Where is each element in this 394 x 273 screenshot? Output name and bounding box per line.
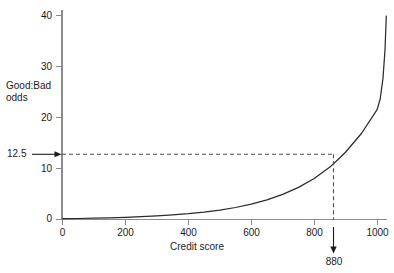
x-axis-ticks bbox=[63, 220, 378, 226]
y-tick-label-10: 10 bbox=[18, 163, 52, 174]
y-axis-title: Good:Bad odds bbox=[6, 80, 51, 104]
annotation-label-score-880: 880 bbox=[312, 256, 356, 267]
annotation-label-odds-12-5: 12.5 bbox=[7, 148, 26, 159]
arrow-to-y-axis bbox=[32, 151, 62, 157]
x-tick-label-400: 400 bbox=[168, 227, 209, 238]
x-tick-label-800: 800 bbox=[294, 227, 335, 238]
x-tick-label-0: 0 bbox=[42, 227, 83, 238]
x-tick-label-600: 600 bbox=[231, 227, 272, 238]
y-axis-title-line-2: odds bbox=[6, 92, 51, 104]
y-tick-label-20: 20 bbox=[18, 112, 52, 123]
y-axis-ticks bbox=[56, 16, 62, 220]
y-tick-label-0: 0 bbox=[18, 213, 52, 224]
chart-figure: 0 10 20 30 40 0 200 400 600 800 1000 Goo… bbox=[0, 0, 394, 273]
y-tick-label-30: 30 bbox=[18, 61, 52, 72]
x-tick-label-1000: 1000 bbox=[357, 227, 394, 238]
odds-curve bbox=[63, 16, 387, 219]
x-tick-label-200: 200 bbox=[105, 227, 146, 238]
y-axis-title-line-1: Good:Bad bbox=[6, 80, 51, 92]
y-tick-label-40: 40 bbox=[18, 10, 52, 21]
x-axis-title: Credit score bbox=[0, 241, 394, 253]
